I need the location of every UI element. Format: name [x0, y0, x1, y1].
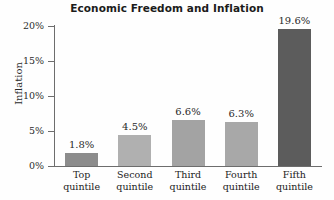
x-category-label-line: Fourth — [211, 169, 271, 181]
x-category-label-line: quintile — [264, 181, 324, 193]
chart-title: Economic Freedom and Inflation — [0, 2, 334, 14]
x-category-label-line: quintile — [158, 181, 218, 193]
x-category-label-line: quintile — [105, 181, 165, 193]
y-tick-label: 15% — [2, 55, 44, 66]
x-category-label-line: Top — [52, 169, 112, 181]
bar — [65, 153, 98, 166]
chart-figure: Economic Freedom and Inflation Inflation… — [0, 0, 334, 200]
x-category-label: Secondquintile — [105, 169, 165, 193]
x-category-label: Fifthquintile — [264, 169, 324, 193]
x-category-label-line: quintile — [52, 181, 112, 193]
x-category-label-line: Fifth — [264, 169, 324, 181]
y-tick-mark — [48, 96, 54, 97]
x-category-label: Thirdquintile — [158, 169, 218, 193]
y-tick-mark — [48, 131, 54, 132]
bar-value-label: 6.3% — [213, 108, 269, 119]
bar-value-label: 19.6% — [266, 15, 322, 26]
x-axis-line — [54, 166, 322, 167]
y-tick-label: 5% — [2, 125, 44, 136]
y-tick-mark — [48, 166, 54, 167]
bar-value-label: 4.5% — [107, 121, 163, 132]
bar — [278, 29, 311, 166]
x-category-label: Fourthquintile — [211, 169, 271, 193]
plot-area: 1.8%4.5%6.6%6.3%19.6% — [55, 26, 321, 166]
y-axis-title: Inflation — [13, 39, 24, 129]
y-tick-label: 20% — [2, 20, 44, 31]
x-category-label-line: Third — [158, 169, 218, 181]
y-tick-mark — [48, 26, 54, 27]
bar-value-label: 1.8% — [54, 139, 110, 150]
y-tick-label: 0% — [2, 160, 44, 171]
y-tick-mark — [48, 61, 54, 62]
x-category-label-line: Second — [105, 169, 165, 181]
x-category-label-line: quintile — [211, 181, 271, 193]
bar — [172, 120, 205, 166]
bar-value-label: 6.6% — [160, 106, 216, 117]
bar — [225, 122, 258, 166]
y-tick-label: 10% — [2, 90, 44, 101]
bar — [118, 135, 151, 167]
x-category-label: Topquintile — [52, 169, 112, 193]
